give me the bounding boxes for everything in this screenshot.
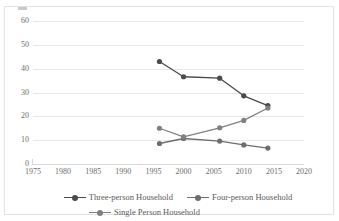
data-point-marker [157,126,162,131]
series-line [159,108,267,137]
data-point-marker [241,118,246,123]
legend-swatch-icon [187,193,209,202]
data-series [157,59,271,108]
data-point-marker [181,134,186,139]
data-point-marker [181,74,186,79]
legend-row: Single Person Household [33,205,323,220]
data-point-marker [217,125,222,130]
data-point-marker [241,93,246,98]
legend-row: Three-person HouseholdFour-person Househ… [33,190,323,205]
legend-item[interactable]: Four-person Household [187,193,292,202]
data-series [157,136,271,151]
x-tick-label: 2020 [284,167,324,176]
legend-swatch-icon [89,208,111,217]
data-point-marker [241,142,246,147]
data-point-marker [217,139,222,144]
chart-legend: Three-person HouseholdFour-person Househ… [33,190,323,220]
data-point-marker [265,105,270,110]
chart-container: 0102030405060 Three-person HouseholdFour… [4,6,334,215]
legend-label: Four-person Household [212,193,292,202]
data-point-marker [157,59,162,64]
data-point-marker [157,141,162,146]
data-series [157,105,271,139]
legend-swatch-icon [64,193,86,202]
legend-item[interactable]: Single Person Household [89,208,200,217]
series-line [159,138,267,148]
series-layer [5,7,339,221]
legend-label: Three-person Household [89,193,173,202]
series-line [159,62,267,106]
data-point-marker [217,76,222,81]
data-point-marker [265,145,270,150]
legend-item[interactable]: Three-person Household [64,193,173,202]
legend-label: Single Person Household [114,208,200,217]
